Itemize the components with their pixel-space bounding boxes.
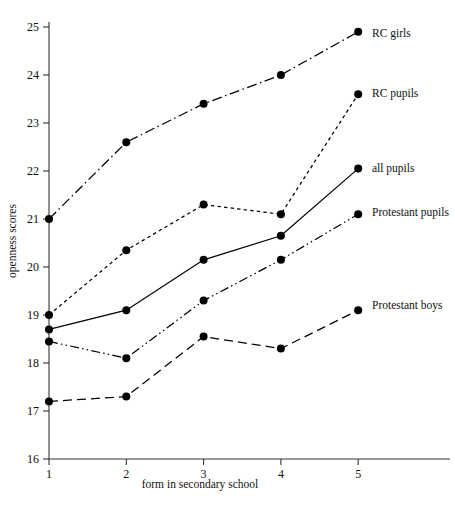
series-lines-group	[49, 32, 358, 402]
data-point-marker[interactable]	[354, 306, 362, 314]
x-tick-label: 1	[46, 467, 52, 481]
series-label-protestant-pupils: Protestant pupils	[372, 206, 450, 219]
data-point-marker[interactable]	[277, 71, 285, 79]
y-tick-label: 25	[27, 20, 39, 34]
data-point-marker[interactable]	[354, 28, 362, 36]
series-markers-group	[45, 28, 362, 406]
series-line-all-pupils	[49, 169, 358, 330]
data-point-marker[interactable]	[354, 90, 362, 98]
data-point-marker[interactable]	[45, 397, 53, 405]
data-point-marker[interactable]	[354, 165, 362, 173]
data-point-marker[interactable]	[45, 215, 53, 223]
x-tick-label: 5	[355, 467, 361, 481]
data-point-marker[interactable]	[45, 337, 53, 345]
data-point-marker[interactable]	[200, 100, 208, 108]
series-line-protestant-boys	[49, 310, 358, 401]
series-label-rc-girls: RC girls	[372, 27, 411, 40]
series-line-rc-girls	[49, 32, 358, 219]
y-tick-label: 23	[27, 116, 39, 130]
data-point-marker[interactable]	[277, 345, 285, 353]
y-tick-label: 19	[27, 308, 39, 322]
data-point-marker[interactable]	[45, 311, 53, 319]
y-tick-label: 18	[27, 356, 39, 370]
data-point-marker[interactable]	[200, 256, 208, 264]
data-point-marker[interactable]	[277, 232, 285, 240]
chart-canvas: 16171819202122232425 12345 RC girlsRC pu…	[0, 0, 455, 505]
data-point-marker[interactable]	[277, 210, 285, 218]
data-point-marker[interactable]	[354, 210, 362, 218]
data-point-marker[interactable]	[122, 138, 130, 146]
x-axis-title: form in secondary school	[142, 478, 259, 491]
data-point-marker[interactable]	[200, 201, 208, 209]
data-point-marker[interactable]	[122, 354, 130, 362]
series-inline-legend-group: RC girlsRC pupilsall pupilsProtestant pu…	[372, 27, 450, 312]
y-axis-ticks: 16171819202122232425	[27, 20, 49, 466]
data-point-marker[interactable]	[122, 306, 130, 314]
series-label-protestant-boys: Protestant boys	[372, 299, 443, 312]
data-point-marker[interactable]	[122, 246, 130, 254]
y-axis-title: openness scores	[6, 204, 19, 278]
data-point-marker[interactable]	[200, 333, 208, 341]
y-tick-label: 22	[27, 164, 39, 178]
data-point-marker[interactable]	[277, 256, 285, 264]
openness-scores-line-chart: 16171819202122232425 12345 RC girlsRC pu…	[0, 0, 455, 505]
y-tick-label: 17	[27, 404, 39, 418]
series-label-rc-pupils: RC pupils	[372, 87, 419, 100]
y-tick-label: 24	[27, 68, 39, 82]
y-tick-label: 21	[27, 212, 39, 226]
data-point-marker[interactable]	[200, 297, 208, 305]
series-label-all-pupils: all pupils	[372, 162, 415, 175]
data-point-marker[interactable]	[45, 325, 53, 333]
y-tick-label: 20	[27, 260, 39, 274]
y-tick-label: 16	[27, 452, 39, 466]
x-tick-label: 2	[123, 467, 129, 481]
x-tick-label: 4	[278, 467, 284, 481]
data-point-marker[interactable]	[122, 393, 130, 401]
